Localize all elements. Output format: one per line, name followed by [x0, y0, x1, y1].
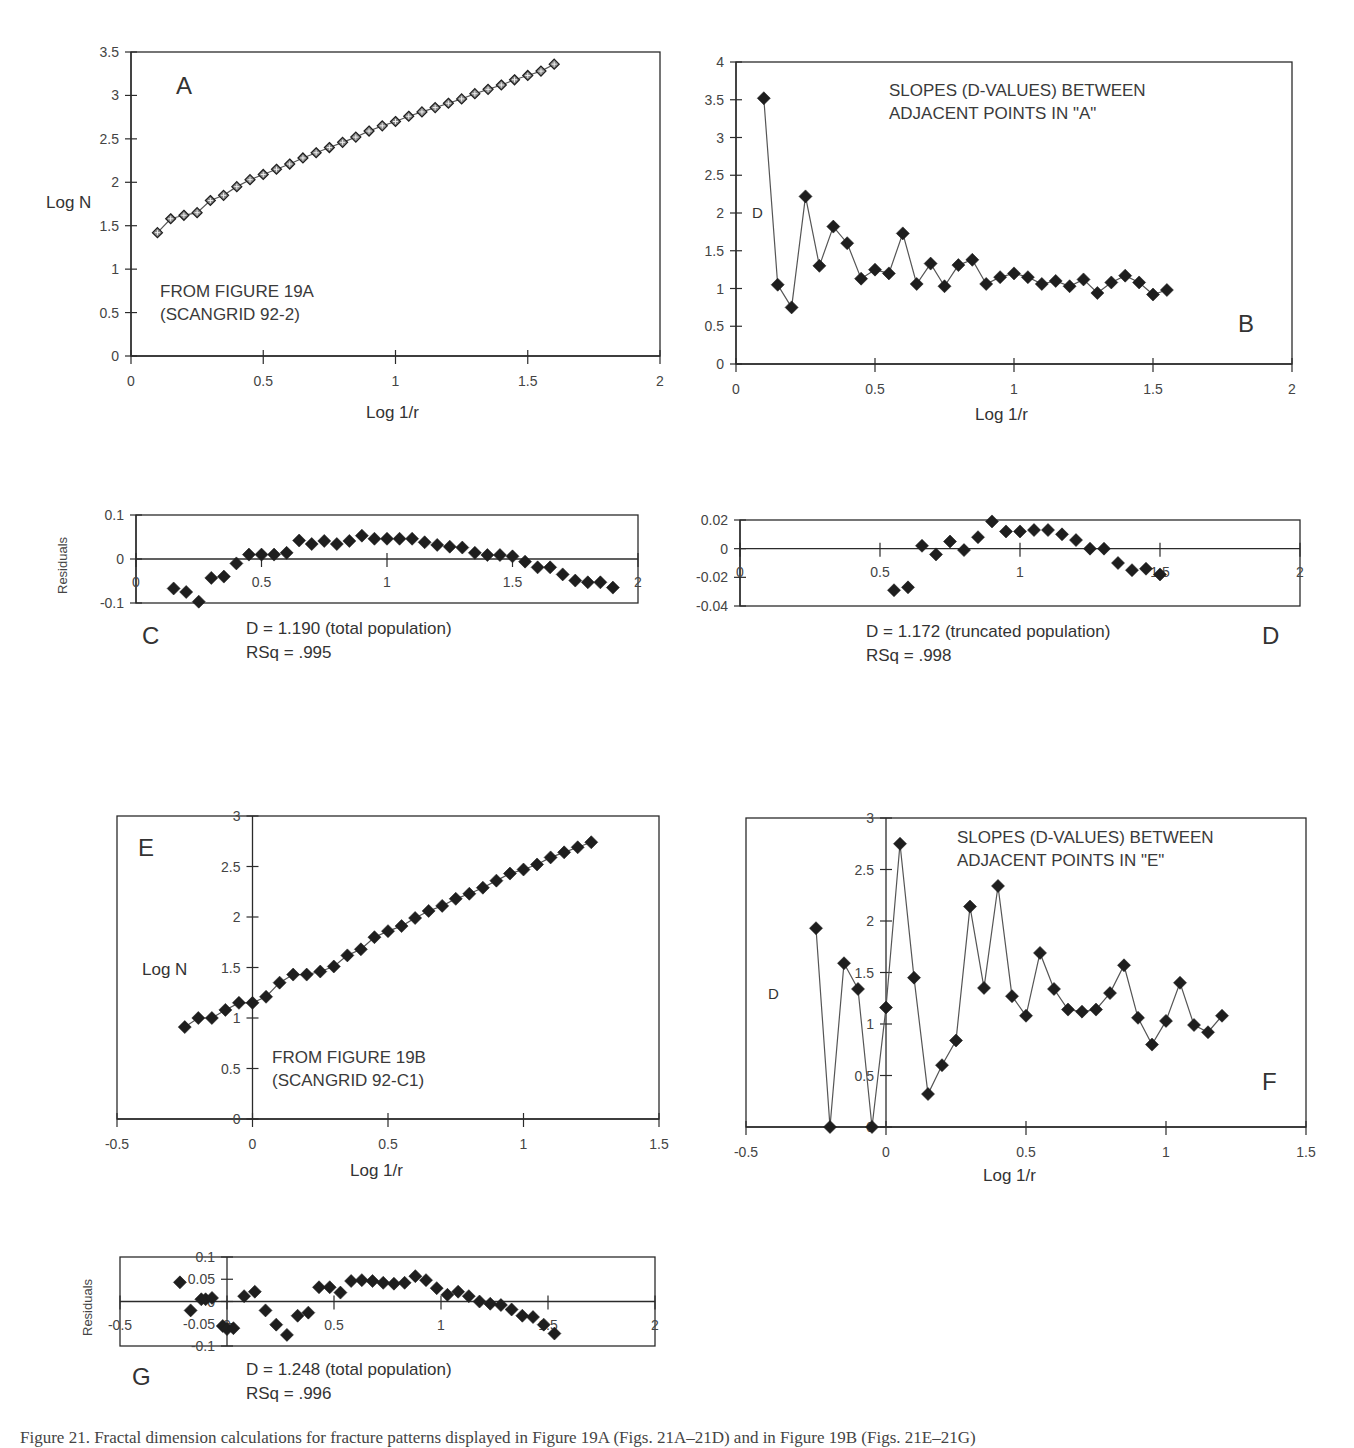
data-point-marker — [173, 1276, 186, 1289]
svg-text:1: 1 — [437, 1317, 445, 1333]
data-point-marker — [366, 1275, 379, 1288]
svg-text:0.1: 0.1 — [196, 1249, 216, 1265]
svg-text:0.5: 0.5 — [324, 1317, 344, 1333]
data-point-marker — [302, 1306, 315, 1319]
svg-text:2: 2 — [651, 1317, 659, 1333]
data-point-marker — [377, 1276, 390, 1289]
data-point-marker — [441, 1288, 454, 1301]
data-point-marker — [473, 1295, 486, 1308]
figure-caption: Figure 21. Fractal dimension calculation… — [20, 1428, 976, 1448]
data-point-marker — [291, 1309, 304, 1322]
data-point-marker — [355, 1274, 368, 1287]
data-point-marker — [516, 1309, 529, 1322]
data-point-marker — [334, 1286, 347, 1299]
regression-stats-g: D = 1.248 (total population) RSq = .996 — [246, 1358, 452, 1406]
data-point-marker — [430, 1282, 443, 1295]
data-point-marker — [398, 1276, 411, 1289]
data-point-marker — [484, 1297, 497, 1310]
data-point-marker — [345, 1275, 358, 1288]
y-axis-title-g: Residuals — [80, 1279, 95, 1336]
svg-text:-0.1: -0.1 — [191, 1338, 215, 1354]
data-point-marker — [259, 1304, 272, 1317]
svg-text:-0.05: -0.05 — [183, 1316, 215, 1332]
data-point-marker — [323, 1281, 336, 1294]
svg-text:0.05: 0.05 — [188, 1271, 215, 1287]
data-point-marker — [280, 1328, 293, 1341]
svg-text:-0.5: -0.5 — [108, 1317, 132, 1333]
data-point-marker — [270, 1318, 283, 1331]
data-point-marker — [387, 1277, 400, 1290]
panel-letter-g: G — [132, 1363, 151, 1391]
